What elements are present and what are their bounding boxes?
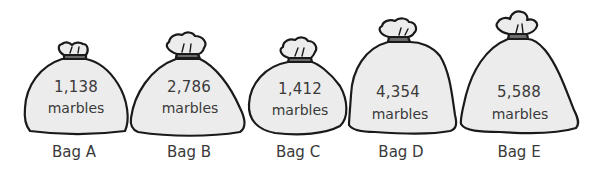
bag-b-count: 2,786 <box>167 78 211 96</box>
bag-a-label: Bag A <box>52 143 96 161</box>
bag-c-label: Bag C <box>276 143 320 161</box>
bag-c-unit: marbles <box>272 102 329 118</box>
bag-b-label: Bag B <box>167 143 211 161</box>
marble-bags-figure: 1,138 marbles Bag A 2,786 marbles Bag B … <box>0 0 600 172</box>
bag-c-count: 1,412 <box>278 80 322 98</box>
bag-e-unit: marbles <box>492 106 549 122</box>
bag-b-unit: marbles <box>162 100 219 116</box>
bag-d-unit: marbles <box>372 106 429 122</box>
bag-e-label: Bag E <box>497 143 540 161</box>
bag-a-unit: marbles <box>48 100 105 116</box>
bag-d-label: Bag D <box>378 143 423 161</box>
bag-e-count: 5,588 <box>497 83 541 101</box>
bag-a-count: 1,138 <box>54 78 98 96</box>
bag-d-count: 4,354 <box>376 83 420 101</box>
